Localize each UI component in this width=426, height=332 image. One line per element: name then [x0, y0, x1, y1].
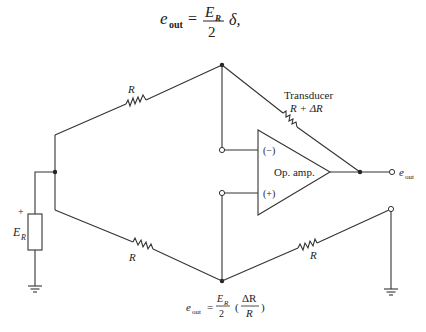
beq-numerator: E	[216, 293, 223, 304]
label-output: e	[399, 166, 404, 178]
output-terminal	[389, 169, 394, 174]
resistor-top-left	[55, 65, 222, 135]
noninverting-terminal	[219, 190, 224, 195]
beq-lhs: e	[186, 301, 191, 313]
label-transducer: Transducer	[284, 89, 333, 101]
beq-paren-close: )	[261, 301, 265, 314]
resistor-bottom-right	[222, 210, 389, 281]
beq-inner-den: R	[245, 307, 253, 319]
resistor-bottom-left	[55, 210, 222, 281]
beq-lhs-sub: out	[192, 308, 201, 316]
eq-numerator: E	[204, 4, 214, 20]
eq-equals: =	[188, 10, 197, 27]
bottom-equation: e out = E R 2 ( ΔR R )	[186, 292, 265, 319]
label-transducer-value: R + ΔR	[289, 102, 323, 114]
label-inverting: (−)	[263, 145, 275, 157]
eq-denominator: 2	[208, 24, 216, 40]
label-source: E	[12, 225, 21, 239]
label-noninverting: (+)	[263, 188, 275, 200]
beq-equals: =	[207, 301, 213, 313]
eq-lhs-sub: out	[169, 19, 184, 30]
label-opamp: Op. amp.	[274, 166, 315, 178]
label-r-bottom-left: R	[128, 251, 136, 263]
bridge-amplifier-circuit: e out = E R 2 δ, R Transducer R + ΔR (−)…	[0, 0, 426, 332]
right-terminal	[388, 206, 393, 211]
eq-tail: δ,	[229, 11, 240, 28]
title-equation: e out = E R 2 δ,	[160, 4, 240, 40]
eq-lhs: e	[160, 9, 168, 28]
source-box	[28, 214, 42, 250]
label-source-sub: R	[20, 233, 26, 242]
ground-icon-right	[384, 289, 398, 295]
ground-icon-left	[28, 286, 42, 292]
label-source-plus: +	[18, 206, 24, 217]
transducer-resistor	[222, 65, 360, 172]
label-r-bottom-right: R	[309, 249, 317, 261]
beq-denominator: 2	[219, 308, 224, 319]
label-output-sub: out	[405, 173, 414, 181]
beq-inner-num: ΔR	[242, 292, 257, 304]
output-junction-dot	[358, 170, 362, 174]
source-top-wire	[35, 172, 55, 214]
inverting-terminal	[219, 147, 224, 152]
beq-paren-open: (	[235, 301, 239, 314]
label-r-top-left: R	[127, 83, 135, 95]
